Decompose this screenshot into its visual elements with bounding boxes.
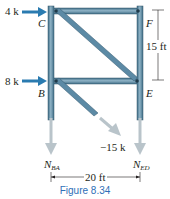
force-arrow-diagonal-icon xyxy=(100,118,121,136)
member-left-column xyxy=(48,6,54,120)
pin-E xyxy=(135,79,139,83)
force-label-NBA: NBA xyxy=(44,159,60,172)
joint-label-B: B xyxy=(38,88,45,99)
joint-label-C: C xyxy=(38,18,45,29)
force-arrow-NBA-icon xyxy=(45,118,57,155)
force-label-NED-sub: ED xyxy=(140,164,149,172)
pin-B xyxy=(54,79,58,83)
pin-C xyxy=(54,9,58,13)
load-label-4k: 4 k xyxy=(5,6,19,17)
joint-label-F: F xyxy=(146,18,153,29)
load-arrow-8k-icon xyxy=(22,76,47,86)
force-arrow-NED-icon xyxy=(134,118,146,155)
width-dimension-label: 20 ft xyxy=(85,172,105,183)
force-label-NBA-sub: BA xyxy=(51,164,60,172)
diagonal-force-label: −15 k xyxy=(100,142,125,153)
height-dimension-label: 15 ft xyxy=(146,40,166,53)
load-label-8k: 8 k xyxy=(5,76,19,87)
member-CE xyxy=(55,8,138,81)
force-label-NED: NED xyxy=(133,159,150,172)
pin-F xyxy=(136,9,140,13)
load-arrow-4k-icon xyxy=(22,7,47,17)
joint-label-E: E xyxy=(146,88,153,99)
figure-caption: Figure 8.34 xyxy=(0,186,170,196)
member-right-column xyxy=(137,6,143,120)
